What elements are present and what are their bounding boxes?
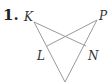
segment-K-N (34, 22, 86, 46)
label-N: N (88, 49, 99, 63)
label-K: K (24, 10, 33, 24)
label-L: L (37, 49, 45, 63)
segment-L-P (47, 20, 97, 46)
geometry-figure (0, 0, 112, 83)
label-P: P (99, 9, 107, 23)
